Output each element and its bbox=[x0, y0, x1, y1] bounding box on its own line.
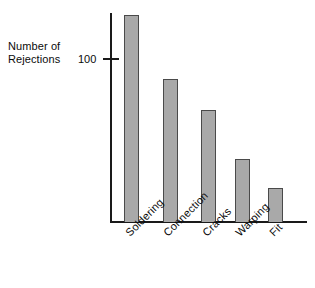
category-label-fit: Fit bbox=[267, 221, 285, 239]
y-axis-title-line1: Number of bbox=[8, 40, 60, 52]
bar-warping bbox=[235, 159, 250, 222]
bar-cracks bbox=[201, 110, 216, 222]
bar-fit bbox=[268, 188, 283, 222]
y-axis-line bbox=[110, 13, 112, 223]
bar-soldering bbox=[124, 15, 139, 222]
y-axis-title: Number of Rejections bbox=[8, 40, 60, 66]
y-axis-title-line2: Rejections bbox=[8, 53, 60, 66]
bar-connection bbox=[163, 79, 178, 222]
y-axis-tick-mark bbox=[103, 58, 119, 60]
bar-chart: Number of Rejections 100 SolderingConnec… bbox=[0, 0, 315, 288]
y-tick-label-100: 100 bbox=[78, 53, 96, 66]
